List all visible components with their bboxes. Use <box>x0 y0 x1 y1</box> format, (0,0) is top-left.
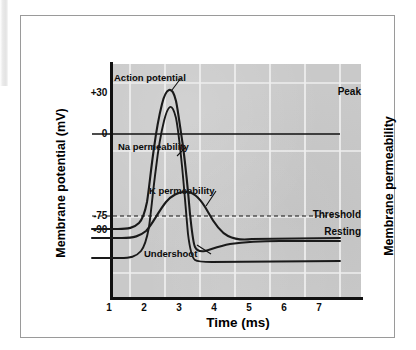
y-tick-label-30: +30 <box>91 87 107 98</box>
gridline-vertical-2 <box>164 64 166 298</box>
y-tick-label-0: 0 <box>102 128 107 139</box>
annotation-k-permeability: K permeability <box>149 185 214 196</box>
y-tick-label-minus-90: -90 <box>93 224 107 235</box>
x-axis-spine <box>110 297 363 300</box>
x-tick-label-1: 1 <box>99 302 119 313</box>
action-potential-figure: +30 0 -75 -90 1 2 3 4 5 6 7 Membrane pot… <box>0 0 416 350</box>
annotation-undershoot: Undershoot <box>144 248 197 259</box>
gridline-vertical-3 <box>199 64 201 298</box>
gridline-vertical-6 <box>304 64 306 298</box>
x-tick-label-3: 3 <box>169 302 189 313</box>
annotation-action-potential: Action potential <box>114 72 186 83</box>
gridline-vertical-7 <box>339 64 341 298</box>
y-axis-title-left: Membrane potential (mV) <box>54 93 68 273</box>
y-tick-30-wrap: +30 <box>73 87 107 99</box>
gridline-vertical-4 <box>234 64 236 298</box>
x-tick-label-4: 4 <box>204 302 224 313</box>
y-tick-75-wrap: -75 <box>73 210 107 222</box>
figure-card: +30 0 -75 -90 1 2 3 4 5 6 7 Membrane pot… <box>20 15 395 338</box>
x-tick-label-7: 7 <box>309 302 329 313</box>
y-tick-0-wrap: 0 <box>73 128 107 140</box>
paper-texture <box>113 64 361 298</box>
y-tick-90-wrap: -90 <box>73 224 107 236</box>
x-tick-label-2: 2 <box>134 302 154 313</box>
y-axis-title-right: Membrane permeability <box>382 86 396 286</box>
page-edge-shadow <box>0 0 8 86</box>
x-axis-title: Time (ms) <box>113 315 363 330</box>
y-axis-spine <box>110 62 113 300</box>
x-tick-label-5: 5 <box>239 302 259 313</box>
threshold-label: Threshold <box>279 209 361 220</box>
x-tick-label-6: 6 <box>274 302 294 313</box>
peak-label: Peak <box>279 86 361 97</box>
gridline-vertical-1 <box>129 64 131 298</box>
plot-area <box>113 64 361 298</box>
annotation-na-permeability: Na permeability <box>118 141 189 152</box>
gridline-vertical-5 <box>269 64 271 298</box>
y-tick-label-minus-75: -75 <box>93 210 107 221</box>
resting-label: Resting <box>279 226 361 237</box>
gridline-horizontal-4 <box>113 272 361 274</box>
